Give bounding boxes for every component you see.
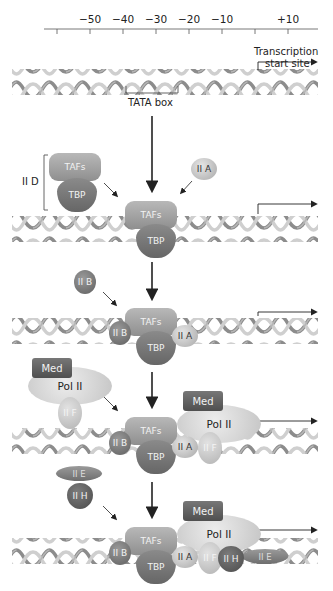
bound-med-4: Med: [183, 391, 223, 411]
pol2-binding-arrow: [104, 397, 117, 410]
tick-label-minus50: −50: [79, 13, 101, 25]
free-med: Med: [32, 358, 72, 378]
iia-binding-arrow: [181, 181, 192, 193]
tick-label-minus10: −10: [211, 13, 233, 25]
tick-label-plus10: +10: [277, 13, 299, 25]
diagram-canvas: [0, 0, 333, 591]
free-iib: II B: [74, 270, 96, 294]
iib-binding-arrow: [103, 292, 116, 305]
position-scale: [44, 29, 318, 34]
iih-binding-arrow: [103, 506, 116, 519]
bound-iia-4: II A: [172, 436, 198, 458]
free-tafs: TAFs: [49, 153, 101, 181]
bound-iib-3: II B: [109, 321, 131, 345]
free-iif: II F: [58, 397, 82, 429]
free-iie: II E: [56, 466, 102, 481]
bound-iif-4: II F: [198, 432, 222, 464]
iid-label: II D: [22, 176, 39, 187]
bound-iia-5: II A: [172, 546, 198, 568]
tata-box-label: TATA box: [128, 97, 173, 108]
bound-iib-5: II B: [109, 541, 131, 565]
dna-helix-1: [12, 69, 318, 95]
tick-label-minus30: −30: [145, 13, 167, 25]
iid-bracket: [44, 155, 48, 210]
bound-iib-4: II B: [109, 431, 131, 455]
iid-binding-arrow: [104, 183, 117, 196]
transcription-start-label: Transcription: [254, 46, 318, 57]
bound-med-5: Med: [183, 501, 223, 521]
transcription-start-label-2: start site: [265, 58, 310, 69]
tss-arrow-2: [258, 204, 316, 214]
tss-arrow-3: [258, 312, 316, 316]
tick-label-minus40: −40: [112, 13, 134, 25]
bound-iia-3: II A: [172, 325, 198, 347]
bound-iie-5: II E: [242, 549, 288, 564]
free-iia: II A: [191, 158, 217, 180]
tick-label-minus20: −20: [178, 13, 200, 25]
tss-arrow-4: [258, 421, 316, 429]
